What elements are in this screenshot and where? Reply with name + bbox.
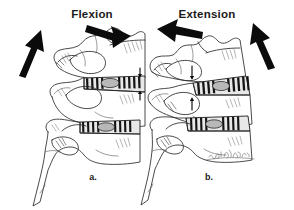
figure-background (0, 0, 294, 210)
spine-motion-figure: Flexion (0, 0, 294, 210)
nucleus-pulposus-flexion (101, 78, 119, 87)
panel-title-flexion: Flexion (71, 8, 113, 20)
lower-disc-flexion (80, 120, 140, 134)
lower-disc-extension (186, 116, 250, 131)
panel-title-extension: Extension (179, 8, 236, 20)
panel-letter-a: a. (89, 172, 97, 182)
panel-letter-b: b. (205, 172, 213, 182)
nucleus-pulposus-lower-flexion (98, 123, 115, 131)
nucleus-pulposus-lower-extension (206, 120, 223, 128)
nucleus-pulposus-extension (213, 81, 230, 90)
